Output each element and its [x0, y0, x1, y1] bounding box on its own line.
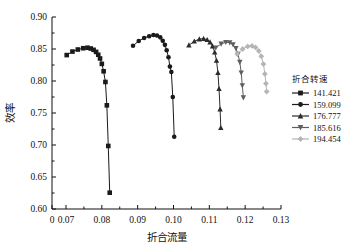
data-point-marker	[131, 44, 136, 49]
data-point-marker	[169, 70, 174, 75]
data-point-marker	[160, 38, 165, 43]
data-point-marker	[136, 39, 141, 44]
data-point-marker	[298, 91, 303, 96]
data-point-marker	[98, 56, 103, 61]
data-point-marker	[215, 70, 220, 75]
legend-label: 141.421	[313, 88, 341, 98]
y-tick-label: 0.70	[30, 140, 47, 150]
data-point-marker	[142, 36, 147, 41]
data-point-marker	[264, 89, 270, 95]
series-176.777	[186, 36, 223, 130]
data-point-marker	[103, 80, 108, 85]
data-point-marker	[101, 69, 106, 74]
data-point-marker	[100, 62, 105, 67]
data-point-marker	[163, 43, 168, 48]
data-point-marker	[214, 58, 219, 63]
legend-item-141.421[interactable]: 141.421	[292, 88, 341, 98]
data-point-marker	[212, 49, 217, 54]
x-tick-label: 0.13	[273, 215, 290, 225]
x-axis-title: 折合流量	[147, 231, 188, 243]
legend-item-185.616[interactable]: 185.616	[292, 123, 341, 133]
x-tick-label: 0.11	[201, 215, 218, 225]
legend-label: 159.099	[313, 100, 341, 110]
data-point-marker	[218, 42, 223, 47]
data-point-marker	[240, 83, 245, 88]
data-point-marker	[298, 102, 303, 107]
y-tick-label: 0.75	[30, 108, 47, 118]
legend-item-194.454[interactable]: 194.454	[292, 134, 341, 144]
x-tick-label: 0.09	[129, 215, 146, 225]
y-tick-label: 0.90	[30, 12, 47, 22]
data-point-marker	[168, 64, 173, 69]
x-tick-label: 0.12	[237, 215, 254, 225]
chart-container: 0.600.650.700.750.800.850.9000.070.080.0…	[0, 0, 364, 250]
data-point-marker	[147, 34, 152, 39]
data-point-marker	[170, 95, 175, 100]
legend-label: 194.454	[313, 134, 341, 144]
y-tick-label: 0.60	[30, 204, 47, 214]
data-point-marker	[218, 125, 223, 130]
data-point-marker	[237, 60, 242, 65]
y-axis-title: 效率	[4, 103, 16, 123]
legend-item-159.099[interactable]: 159.099	[292, 100, 341, 110]
data-point-marker	[164, 48, 169, 53]
data-point-marker	[186, 42, 191, 47]
data-point-marker	[106, 144, 111, 149]
data-point-marker	[217, 106, 222, 111]
series-194.454	[234, 43, 269, 94]
data-point-marker	[241, 95, 246, 100]
legend-label: 185.616	[313, 123, 341, 133]
legend-label: 176.777	[313, 111, 341, 121]
data-point-marker	[81, 46, 86, 51]
x-tick-label: 0.10	[165, 215, 182, 225]
data-point-marker	[166, 55, 171, 60]
efficiency-flow-chart: 0.600.650.700.750.800.850.9000.070.080.0…	[0, 0, 364, 250]
data-point-marker	[192, 39, 197, 44]
y-tick-label: 0.80	[30, 76, 47, 86]
y-tick-label: 0.85	[30, 44, 47, 54]
data-point-marker	[64, 53, 69, 58]
data-point-marker	[239, 70, 244, 75]
x-tick-label: 0	[50, 215, 55, 225]
data-point-marker	[233, 46, 238, 51]
data-point-marker	[298, 136, 304, 142]
data-point-marker	[258, 53, 264, 59]
data-point-marker	[261, 61, 267, 67]
legend-item-176.777[interactable]: 176.777	[292, 111, 341, 121]
x-tick-label: 0.08	[94, 215, 111, 225]
data-point-marker	[70, 49, 75, 54]
data-point-marker	[216, 86, 221, 91]
series-159.099	[131, 33, 177, 139]
data-point-marker	[263, 81, 269, 87]
legend-title: 折合转速	[292, 74, 328, 84]
data-point-marker	[172, 134, 177, 139]
series-141.421	[64, 45, 112, 195]
data-point-marker	[262, 71, 268, 77]
y-tick-label: 0.65	[30, 172, 47, 182]
data-point-marker	[76, 47, 81, 52]
data-point-marker	[105, 103, 110, 108]
data-point-marker	[107, 190, 112, 195]
x-tick-label: 0.07	[58, 215, 75, 225]
